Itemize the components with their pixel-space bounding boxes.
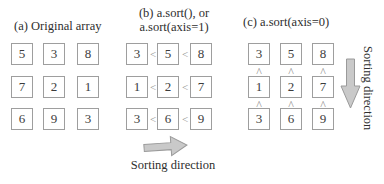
array-cell-b-1-1: 2: [157, 76, 179, 98]
array-cell-b-1-0: 1: [126, 76, 148, 98]
array-cell-a-2-1: 9: [43, 108, 65, 130]
numpy-sort-diagram: (a) Original array (b) a.sort(), or a.so…: [0, 0, 384, 184]
array-cell-a-0-1: 3: [43, 43, 65, 65]
array-cell-c-0-1: 5: [280, 43, 302, 65]
array-cell-a-2-0: 6: [11, 108, 33, 130]
array-cell-b-0-1: 5: [157, 43, 179, 65]
less-than-symbol: <: [150, 114, 156, 125]
array-cell-a-0-0: 5: [11, 43, 33, 65]
array-cell-b-2-1: 6: [157, 108, 179, 130]
panel-b-caption-line1: (b) a.sort(), or: [126, 6, 222, 20]
caret-symbol: ^: [288, 66, 294, 78]
panel-b-caption: (b) a.sort(), or a.sort(axis=1): [126, 6, 222, 34]
array-cell-a-1-1: 2: [43, 76, 65, 98]
less-than-symbol: <: [150, 49, 156, 60]
less-than-symbol: <: [182, 114, 188, 125]
array-cell-b-0-0: 3: [126, 43, 148, 65]
panel-b-caption-line2: a.sort(axis=1): [126, 20, 222, 34]
array-cell-a-2-2: 3: [77, 108, 99, 130]
panel-a-caption: (a) Original array: [14, 19, 101, 33]
caret-symbol: ^: [320, 99, 326, 111]
array-cell-a-0-2: 8: [77, 43, 99, 65]
array-cell-a-1-2: 1: [77, 76, 99, 98]
caret-symbol: ^: [256, 99, 262, 111]
sorting-direction-label-vertical: Sorting direction: [360, 46, 375, 130]
array-cell-a-1-0: 7: [11, 76, 33, 98]
right-arrow-icon: [142, 133, 189, 159]
array-cell-b-2-0: 3: [126, 108, 148, 130]
less-than-symbol: <: [182, 49, 188, 60]
array-cell-b-1-2: 7: [190, 76, 212, 98]
array-cell-c-0-0: 3: [248, 43, 270, 65]
less-than-symbol: <: [150, 82, 156, 93]
caret-symbol: ^: [256, 66, 262, 78]
array-cell-c-0-2: 8: [312, 43, 334, 65]
caret-symbol: ^: [288, 99, 294, 111]
down-arrow-icon: [339, 58, 361, 110]
array-cell-c-1-2: 7: [312, 76, 334, 98]
panel-c-caption: (c) a.sort(axis=0): [243, 15, 329, 29]
caret-symbol: ^: [320, 66, 326, 78]
array-cell-c-1-0: 1: [248, 76, 270, 98]
array-cell-b-2-2: 9: [190, 108, 212, 130]
array-cell-c-1-1: 2: [280, 76, 302, 98]
array-cell-b-0-2: 8: [190, 43, 212, 65]
less-than-symbol: <: [182, 82, 188, 93]
sorting-direction-label-horizontal: Sorting direction: [108, 158, 238, 173]
